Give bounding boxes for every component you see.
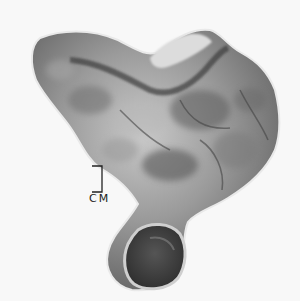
lower-pouch xyxy=(125,224,185,288)
specimen-photo: CM xyxy=(0,0,300,301)
scale-bar-label: CM xyxy=(89,192,110,205)
specimen-illustration xyxy=(0,0,300,301)
scale-bar xyxy=(92,166,102,192)
